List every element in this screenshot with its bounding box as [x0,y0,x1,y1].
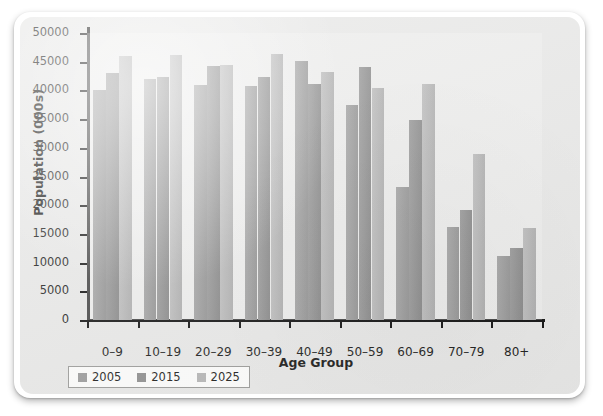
x-tick [390,320,392,328]
y-tick-label: 25000 [32,169,69,183]
y-tick: 30000 [80,148,87,150]
plot-area: 0500010000150002000025000300003500040000… [87,33,542,320]
bar-2015-40–49 [308,84,321,320]
bar-2025-10–19 [170,55,183,320]
bar-group [144,33,183,320]
bar-2005-10–19 [144,79,157,320]
bar-2005-40–49 [295,61,308,320]
bar-group [346,33,385,320]
x-tick [87,320,89,328]
x-tick [441,320,443,328]
bar-group [93,33,132,320]
bar-2025-70–79 [473,154,486,320]
x-tick [491,320,493,328]
x-tick [542,320,544,328]
bar-2015-30–39 [258,77,271,320]
y-tick-label: 0 [62,312,69,326]
y-tick-label: 15000 [32,226,69,240]
bar-group [245,33,284,320]
y-tick: 40000 [80,90,87,92]
plot-wrapper: Population (000s) 0500010000150002000025… [20,17,580,394]
y-tick-label: 35000 [32,111,69,125]
bar-2015-0–9 [106,73,119,320]
legend-label: 2025 [211,370,240,384]
bar-group [497,33,536,320]
bar-group [295,33,334,320]
bar-2005-30–39 [245,86,258,320]
chart-card: Population (000s) 0500010000150002000025… [20,17,580,394]
bar-2005-0–9 [93,90,106,320]
x-tick [188,320,190,328]
bar-group [194,33,233,320]
bar-2025-20–29 [220,65,233,320]
legend-label: 2015 [151,370,180,384]
bar-2025-30–39 [271,54,284,320]
y-tick-label: 10000 [32,255,69,269]
x-tick [340,320,342,328]
bar-group [396,33,435,320]
bar-2015-70–79 [460,210,473,320]
y-tick-label: 50000 [32,25,69,39]
bar-2015-60–69 [409,120,422,320]
y-tick: 45000 [80,62,87,64]
y-tick: 10000 [80,263,87,265]
bar-2025-40–49 [321,72,334,320]
y-tick: 15000 [80,234,87,236]
y-tick: 5000 [80,291,87,293]
x-tick [239,320,241,328]
bar-group [447,33,486,320]
bar-2015-10–19 [157,77,170,320]
chart-page: Population (000s) 0500010000150002000025… [0,0,603,416]
legend-label: 2005 [92,370,121,384]
y-tick-label: 40000 [32,82,69,96]
legend-item-2005[interactable]: 2005 [78,370,121,384]
y-tick-label: 30000 [32,140,69,154]
y-tick-label: 45000 [32,54,69,68]
y-tick: 35000 [80,119,87,121]
bar-2015-80+ [510,248,523,320]
bar-2005-20–29 [194,85,207,320]
y-tick: 0 [80,320,87,322]
y-tick: 25000 [80,177,87,179]
bar-2025-60–69 [422,84,435,320]
bar-2005-70–79 [447,227,460,320]
bar-2025-50–59 [372,88,385,320]
legend-swatch-icon [78,373,87,382]
bar-2005-80+ [497,256,510,320]
y-tick: 20000 [80,205,87,207]
x-tick [138,320,140,328]
y-tick-label: 5000 [40,283,69,297]
x-tick [289,320,291,328]
bar-2025-80+ [523,228,536,320]
legend-swatch-icon [137,373,146,382]
chart-legend: 200520152025 [68,366,250,388]
bar-2015-50–59 [359,67,372,320]
bar-2005-60–69 [396,187,409,320]
legend-swatch-icon [197,373,206,382]
bar-2005-50–59 [346,105,359,320]
y-tick-label: 20000 [32,197,69,211]
y-tick: 50000 [80,33,87,35]
bar-2025-0–9 [119,56,132,320]
bar-2015-20–29 [207,66,220,320]
legend-item-2015[interactable]: 2015 [137,370,180,384]
legend-item-2025[interactable]: 2025 [197,370,240,384]
